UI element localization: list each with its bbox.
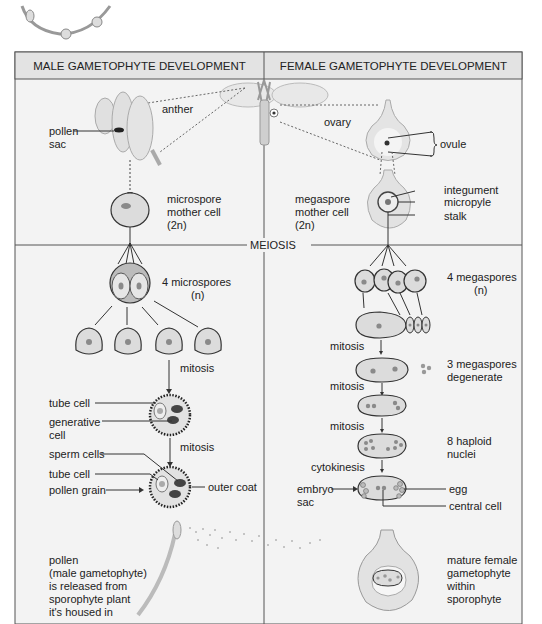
pollen-release-line-3: is released from — [49, 580, 127, 593]
megaspore-mother-label-3: (2n) — [295, 219, 315, 232]
generative-cell-label-2: cell — [49, 429, 66, 442]
stalk-label: stalk — [444, 210, 467, 223]
pollen-release-line-1: pollen — [49, 554, 78, 567]
generative-cell-label: generative — [49, 416, 100, 429]
degenerate-label-2: degenerate — [447, 371, 503, 384]
microspore-mother-label-3: (2n) — [167, 219, 187, 232]
egg-label: egg — [449, 483, 467, 496]
meiosis-label: MEIOSIS — [250, 239, 296, 252]
mitosis-label-female-2: mitosis — [330, 380, 364, 393]
pollen-sac-label-2: sac — [49, 138, 66, 151]
mature-female-line-3: within — [447, 580, 475, 593]
anther-label: anther — [162, 103, 193, 116]
megaspore-mother-label-2: mother cell — [295, 206, 349, 219]
degenerate-label: 3 megaspores — [447, 358, 517, 371]
pollen-release-line-4: sporophyte plant — [49, 593, 130, 606]
tube-cell-label: tube cell — [49, 397, 90, 410]
microspore-mother-label: microspore — [167, 193, 221, 206]
sperm-cells-label: sperm cells — [49, 448, 105, 461]
embryo-sac-label-2: sac — [297, 496, 314, 509]
megaspores-ploidy: (n) — [474, 284, 487, 297]
micropyle-label: micropyle — [444, 196, 491, 209]
microspore-mother-label-2: mother cell — [167, 206, 221, 219]
ovary-label: ovary — [324, 116, 351, 129]
pollen-release-line-5: it's housed in — [49, 606, 113, 619]
microspores-ploidy: (n) — [191, 289, 204, 302]
cytokinesis-label: cytokinesis — [311, 461, 365, 474]
megaspore-mother-label: megaspore — [295, 193, 350, 206]
mature-female-line-4: sporophyte — [447, 593, 501, 606]
mature-female-line-2: gametophyte — [447, 567, 511, 580]
ovule-label: ovule — [440, 138, 466, 151]
pollen-grain-label: pollen grain — [49, 484, 106, 497]
mature-female-line-1: mature female — [447, 554, 517, 567]
megaspores-label: 4 megaspores — [447, 271, 517, 284]
mitosis-label-female-1: mitosis — [330, 340, 364, 353]
outer-coat-label: outer coat — [208, 481, 257, 494]
microspore-mother-cell — [111, 193, 149, 227]
embryo-sac-label: embryo — [297, 483, 334, 496]
mitosis-label-male-2: mitosis — [180, 441, 214, 454]
mitosis-label-female-3: mitosis — [330, 420, 364, 433]
haploid-nuclei-label-2: nuclei — [447, 448, 476, 461]
diagram-artwork — [0, 0, 542, 624]
pollen-sac-label: pollen — [49, 125, 78, 138]
mitosis-label-male-1: mitosis — [180, 362, 214, 375]
microspores-label: 4 microspores — [162, 276, 231, 289]
lifecycle-fragment-icon — [22, 6, 110, 39]
male-section-title: MALE GAMETOPHYTE DEVELOPMENT — [15, 52, 264, 80]
pollen-release-line-2: (male gametophyte) — [49, 567, 147, 580]
haploid-nuclei-label: 8 haploid — [447, 435, 492, 448]
central-cell-label: central cell — [449, 500, 502, 513]
female-section-title: FEMALE GAMETOPHYTE DEVELOPMENT — [265, 52, 522, 80]
tube-cell-label-2: tube cell — [49, 468, 90, 481]
